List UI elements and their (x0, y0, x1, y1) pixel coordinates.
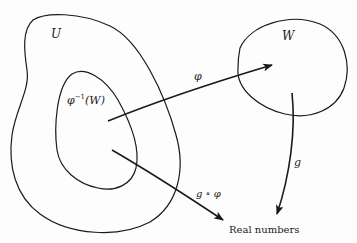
arrow-g (277, 93, 293, 214)
diagram-svg: U W φ−1(W) φ g g ∘ φ Real numbers (0, 0, 357, 243)
label-g: g (294, 156, 301, 169)
set-u-outline (11, 15, 180, 233)
label-preimage: φ−1(W) (67, 93, 105, 107)
label-phi: φ (194, 70, 202, 83)
label-g-compose-phi: g ∘ φ (196, 188, 221, 199)
label-preimage-sup: −1 (75, 93, 85, 101)
diagram-canvas: U W φ−1(W) φ g g ∘ φ Real numbers (0, 0, 357, 243)
label-preimage-arg: (W) (85, 94, 105, 107)
arrow-g-compose-phi (112, 150, 223, 220)
label-u: U (51, 27, 62, 41)
label-w: W (282, 29, 296, 43)
label-real-numbers: Real numbers (229, 224, 299, 235)
set-preimage-outline (56, 72, 137, 190)
